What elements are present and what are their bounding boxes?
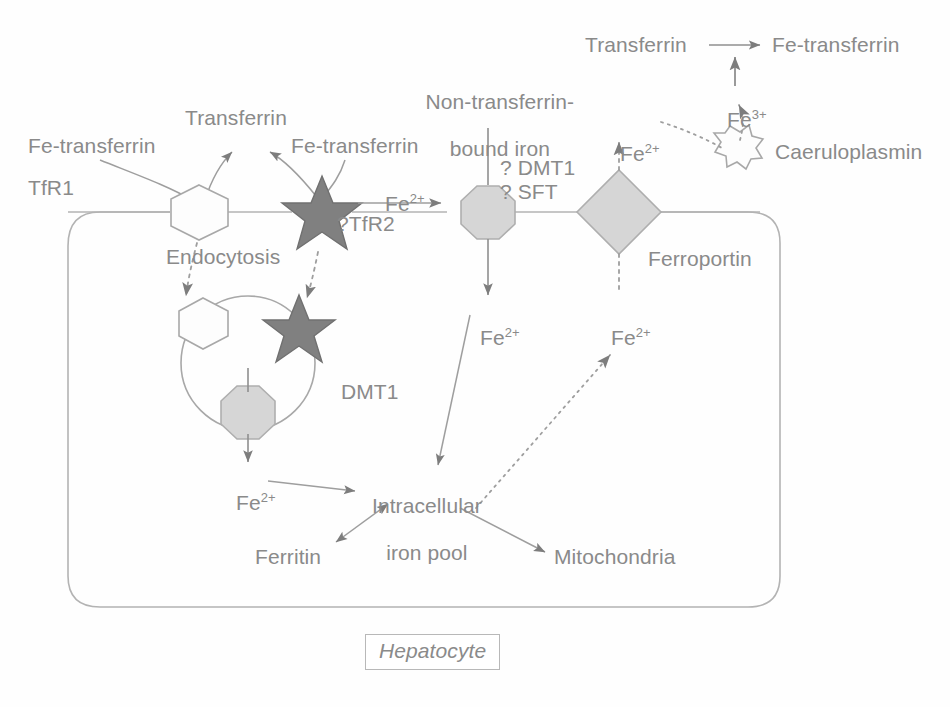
fe2-fp-out-element: Fe bbox=[620, 142, 645, 165]
label-ferritin: Ferritin bbox=[255, 545, 321, 569]
fe2-dmt1-element: Fe bbox=[480, 326, 505, 349]
fe2-vesicle-element: Fe bbox=[236, 491, 261, 514]
label-fe-transferrin-mid: Fe-transferrin bbox=[291, 134, 418, 158]
iron-pool-line-1: Intracellular bbox=[372, 494, 482, 517]
tfr2-to-transferrin-release-arrow bbox=[270, 152, 316, 196]
fe2-influx-charge: 2+ bbox=[410, 191, 425, 206]
fe2-dmt1-charge: 2+ bbox=[505, 325, 520, 340]
hepatocyte-caption-label: Hepatocyte bbox=[379, 639, 486, 663]
iron-metabolism-diagram: Fe-transferrin Transferrin Fe-transferri… bbox=[0, 0, 950, 707]
label-tfr1: TfR1 bbox=[28, 176, 74, 200]
label-mitochondria: Mitochondria bbox=[554, 545, 675, 569]
vesicle-fe2-to-iron-pool-arrow bbox=[268, 481, 355, 491]
label-dmt1-query: ? DMT1 bbox=[500, 156, 575, 180]
fe2-influx-element: Fe bbox=[385, 192, 410, 215]
fe2-fp-in-element: Fe bbox=[611, 326, 636, 349]
label-intracellular-iron-pool: Intracellular iron pool bbox=[348, 470, 482, 588]
label-transferrin-top: Transferrin bbox=[185, 106, 287, 130]
fe2-fp-in-charge: 2+ bbox=[636, 325, 651, 340]
fe-transferrin-to-tfr1-arrow bbox=[100, 160, 192, 200]
hepatocyte-caption-box: Hepatocyte bbox=[365, 634, 500, 670]
label-dmt1-cytosol: DMT1 bbox=[341, 380, 399, 404]
iron-pool-to-ferroportin-dotted-arrow bbox=[476, 355, 610, 508]
fe3-element: Fe bbox=[727, 108, 752, 131]
fe2-vesicle-charge: 2+ bbox=[261, 490, 276, 505]
label-sft-query: ? SFT bbox=[500, 180, 558, 204]
ntbi-line-1: Non-transferrin- bbox=[426, 90, 575, 113]
label-fe-transferrin-right: Fe-transferrin bbox=[772, 33, 899, 57]
endocytosis-arrow-right bbox=[307, 252, 318, 298]
label-ferroportin: Ferroportin bbox=[648, 247, 752, 271]
label-fe2-vesicle-out: Fe2+ bbox=[212, 467, 275, 538]
iron-pool-line-2: iron pool bbox=[386, 541, 467, 564]
label-fe2-influx: Fe2+ bbox=[361, 168, 424, 239]
label-fe2-ferroportin-out: Fe2+ bbox=[596, 118, 659, 189]
fe2-fp-out-charge: 2+ bbox=[645, 141, 660, 156]
label-fe-transferrin-left: Fe-transferrin bbox=[28, 134, 155, 158]
label-fe2-ferroportin-in: Fe2+ bbox=[587, 302, 650, 373]
label-endocytosis: Endocytosis bbox=[166, 245, 280, 269]
label-fe3-oxidised: Fe3+ bbox=[703, 84, 766, 155]
label-fe2-dmt1-out: Fe2+ bbox=[456, 302, 519, 373]
endosome-vesicle bbox=[179, 295, 335, 462]
label-caeruloplasmin: Caeruloplasmin bbox=[775, 140, 922, 164]
label-transferrin-right: Transferrin bbox=[585, 33, 687, 57]
fe3-charge: 3+ bbox=[752, 107, 767, 122]
